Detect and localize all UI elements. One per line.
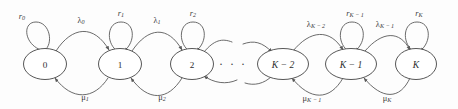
edge-lambda-k-minus-2 bbox=[293, 34, 343, 51]
label-r-k-minus-1: rK − 1 bbox=[346, 9, 364, 19]
state-node-1-label: 1 bbox=[118, 60, 123, 70]
state-node-1[interactable]: 1 bbox=[99, 49, 142, 80]
label-r-k-sub: K bbox=[418, 12, 424, 18]
state-node-k-minus-2[interactable]: K − 2 bbox=[258, 49, 309, 80]
state-node-0[interactable]: 0 bbox=[24, 49, 67, 80]
state-node-2-label: 2 bbox=[190, 60, 195, 70]
edge-lambda1 bbox=[132, 32, 182, 51]
label-r0: r0 bbox=[19, 12, 25, 22]
label-mu-1-sub: 1 bbox=[86, 96, 89, 102]
markov-chain-diagram: 0 1 2 K − 2 K − 1 K · · bbox=[0, 0, 458, 109]
edge-backward-stub-into-2 bbox=[204, 76, 237, 83]
state-node-2[interactable]: 2 bbox=[171, 49, 214, 80]
edge-mu-k-minus-k bbox=[364, 78, 410, 95]
label-lambda-0-sub: 0 bbox=[82, 19, 85, 25]
label-r1-sub: 1 bbox=[121, 12, 124, 18]
label-mu-k-minus-1-sub: K − 1 bbox=[306, 97, 321, 103]
label-r1: r1 bbox=[118, 9, 124, 19]
edge-forward-stub-into-k-minus-2 bbox=[243, 42, 272, 52]
self-loop-r2 bbox=[181, 22, 204, 51]
label-lambda-k-minus-2-sub: K − 2 bbox=[310, 23, 325, 29]
self-loop-r0 bbox=[27, 22, 50, 51]
label-lambda-1: λ1 bbox=[153, 16, 160, 26]
label-r-k-minus-1-sub: K − 1 bbox=[348, 12, 363, 18]
backward-edge-labels-group: μ1 μ2 μK − 1 μK bbox=[81, 93, 392, 104]
label-r2: r2 bbox=[190, 9, 196, 19]
state-node-k-minus-1-label: K − 1 bbox=[339, 59, 362, 70]
edge-mu2 bbox=[131, 78, 182, 96]
ellipsis-dots: · · · bbox=[219, 57, 247, 71]
self-loop-r-k-minus-1 bbox=[340, 22, 363, 51]
self-loop-r1 bbox=[109, 22, 132, 51]
label-lambda-0: λ0 bbox=[77, 16, 84, 26]
label-mu-2-sub: 2 bbox=[163, 96, 166, 102]
edge-mu-k-minus-1 bbox=[292, 78, 343, 95]
state-node-k-minus-1[interactable]: K − 1 bbox=[326, 49, 377, 80]
edge-forward-stub-right-of-2 bbox=[204, 40, 232, 52]
state-node-k[interactable]: K bbox=[396, 49, 437, 80]
label-r0-sub: 0 bbox=[22, 15, 25, 21]
label-mu-k: μK bbox=[383, 94, 393, 104]
label-r-k: rK bbox=[415, 9, 423, 19]
label-lambda-k-minus-2: λK − 2 bbox=[307, 20, 325, 30]
label-lambda-k-minus-1-sub: K − 1 bbox=[379, 23, 394, 29]
label-lambda-1-sub: 1 bbox=[158, 19, 161, 25]
state-node-k-minus-2-label: K − 2 bbox=[271, 59, 295, 70]
edge-lambda-k-minus-1 bbox=[365, 35, 410, 51]
state-node-k-label: K bbox=[412, 59, 420, 70]
label-r2-sub: 2 bbox=[193, 12, 196, 18]
edge-backward-stub-out-of-k-minus-2 bbox=[245, 76, 272, 84]
label-mu-k-sub: K bbox=[386, 97, 392, 103]
self-loop-r-k bbox=[405, 22, 428, 51]
diagram-canvas: 0 1 2 K − 2 K − 1 K · · bbox=[0, 0, 458, 109]
state-node-0-label: 0 bbox=[43, 60, 48, 70]
label-lambda-k-minus-1: λK − 1 bbox=[376, 20, 394, 30]
self-loops-group bbox=[27, 22, 429, 51]
edge-lambda0 bbox=[56, 31, 109, 51]
